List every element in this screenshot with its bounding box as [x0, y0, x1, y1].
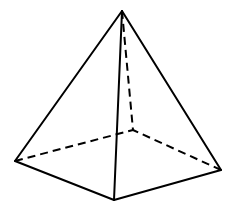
visible-edge-apex-right [122, 11, 221, 170]
visible-edge-front-right [114, 170, 221, 200]
visible-edges [15, 11, 221, 200]
visible-edge-apex-front [114, 11, 122, 200]
visible-edge-apex-left [15, 11, 122, 161]
pyramid-diagram [0, 0, 236, 206]
hidden-edge-apex-back_hidden [122, 11, 133, 130]
visible-edge-left-front [15, 161, 114, 200]
